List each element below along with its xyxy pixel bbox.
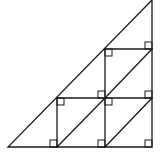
- right-angle-marker: [105, 98, 112, 105]
- triangle-outline: [8, 0, 152, 147]
- geometry-diagram: [0, 0, 160, 167]
- right-angle-marker: [98, 140, 105, 147]
- right-angle-marker: [98, 91, 105, 98]
- right-angle-marker: [145, 42, 152, 49]
- right-angle-marker: [50, 140, 57, 147]
- right-angle-marker: [57, 98, 64, 105]
- right-angle-marker: [145, 140, 152, 147]
- right-angle-marker: [105, 49, 112, 56]
- outer-triangle: [8, 0, 152, 147]
- right-angle-markers: [50, 42, 152, 147]
- right-angle-marker: [145, 91, 152, 98]
